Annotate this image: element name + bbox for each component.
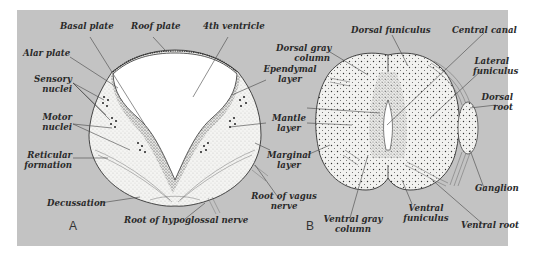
label-basal-plate: Basal plate (60, 21, 114, 31)
label-ependymal-layer: Ependymal layer (262, 64, 318, 84)
label-dorsal-gray-column: Dorsal gray column (276, 43, 330, 63)
label-root-hypoglossal-nerve: Root of hypoglossal nerve (124, 215, 248, 225)
label-decussation: Decussation (47, 198, 106, 208)
label-roof-plate: Roof plate (131, 21, 181, 31)
label-reticular-formation: Reticular formation (14, 150, 72, 170)
label-alar-plate: Alar plate (23, 48, 70, 58)
label-root-vagus-nerve: Root of vagus nerve (248, 191, 320, 211)
label-dorsal-funiculus: Dorsal funiculus (351, 25, 431, 35)
label-ventral-root: Ventral root (461, 220, 519, 230)
label-fourth-ventricle: 4th ventricle (203, 21, 265, 31)
label-lateral-funiculus: Lateral funiculus (473, 56, 518, 76)
medulla-diagram (89, 50, 268, 214)
label-mantle-layer: Mantle layer (268, 113, 310, 133)
label-motor-nuclei: Motor nuclei (20, 112, 72, 132)
label-ventral-funiculus: Ventral funiculus (403, 203, 449, 223)
label-dorsal-root: Dorsal root (480, 92, 513, 112)
panel-a-letter: A (69, 219, 77, 233)
label-central-canal: Central canal (452, 25, 517, 35)
label-marginal-layer: Marginal layer (266, 150, 312, 170)
panel-b-letter: B (306, 219, 314, 233)
label-sensory-nuclei: Sensory nuclei (20, 74, 72, 94)
label-ventral-gray-column: Ventral gray column (322, 214, 384, 234)
label-ganglion: Ganglion (475, 183, 519, 193)
spinal-cord-diagram (316, 53, 478, 190)
